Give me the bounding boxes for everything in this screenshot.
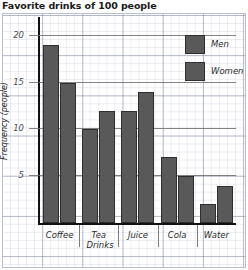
bar-cola-men [161, 157, 177, 223]
bar-coffee-men [43, 45, 59, 223]
legend-swatch-women [185, 62, 205, 81]
legend-label-men: Men [211, 39, 229, 49]
bar-group-coffee [40, 17, 79, 223]
bar-tea-women [99, 111, 115, 223]
bar-juice-women [138, 92, 154, 223]
category-separator-2 [118, 225, 119, 247]
category-separator-4 [197, 225, 198, 247]
bar-group-juice [118, 17, 157, 223]
bar-water-women [217, 186, 233, 223]
x-axis-categories: CoffeeTeaJuiceColaWater [40, 225, 236, 249]
y-tick-label-10: 10 [13, 123, 24, 133]
bar-cola-women [178, 176, 194, 223]
category-separator-3 [158, 225, 159, 247]
bar-coffee-women [60, 83, 76, 223]
bar-group-tea [79, 17, 118, 223]
legend-swatch-men [185, 35, 205, 54]
bar-tea-men [82, 129, 98, 223]
y-tick-label-5: 5 [19, 170, 24, 180]
y-tick-label-20: 20 [13, 30, 24, 40]
x-tick-label-tea: Tea [92, 230, 107, 240]
chart-screenshot: Favorite drinks of 100 people 5101520 Fr… [0, 0, 248, 270]
x-tick-label-cola: Cola [168, 230, 187, 240]
y-tick-label-15: 15 [13, 77, 24, 87]
x-tick-label-coffee: Coffee [46, 230, 74, 240]
chart-title: Favorite drinks of 100 people [2, 0, 157, 11]
bar-juice-men [121, 111, 137, 223]
bar-series-container [40, 17, 236, 223]
plot-area: 5101520 Frequency (people) CoffeeTeaJuic… [38, 17, 236, 225]
bar-water-men [200, 204, 216, 223]
category-separator-1 [79, 225, 80, 247]
legend-label-women: Women [211, 66, 244, 76]
y-axis-label: Frequency (people) [0, 82, 9, 160]
x-axis-label: Drinks [86, 240, 113, 250]
x-tick-label-water: Water [204, 230, 229, 240]
x-tick-label-juice: Juice [128, 230, 148, 240]
